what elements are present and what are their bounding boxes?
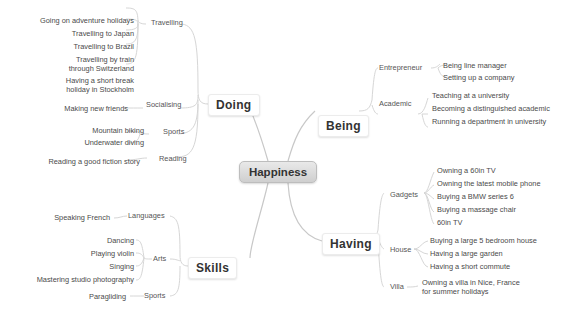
node-villa[interactable]: Villa bbox=[390, 282, 404, 291]
leaf-60in-tv-2[interactable]: 60in TV bbox=[437, 218, 462, 227]
leaf-mountain-biking[interactable]: Mountain biking bbox=[92, 126, 144, 135]
leaf-short-commute[interactable]: Having a short commute bbox=[430, 262, 510, 271]
leaf-paragliding[interactable]: Paragliding bbox=[89, 292, 126, 301]
node-languages[interactable]: Languages bbox=[128, 211, 165, 220]
node-having[interactable]: Having bbox=[322, 233, 380, 255]
root-node-happiness[interactable]: Happiness bbox=[239, 161, 317, 183]
leaf-playing-violin[interactable]: Playing violin bbox=[91, 249, 134, 258]
leaf-studio-photography[interactable]: Mastering studio photography bbox=[37, 275, 134, 284]
leaf-underwater-diving[interactable]: Underwater diving bbox=[84, 138, 144, 147]
node-doing-label: Doing bbox=[216, 98, 252, 112]
node-doing[interactable]: Doing bbox=[208, 94, 260, 116]
leaf-line: holiday in Stockholm bbox=[66, 85, 134, 94]
leaf-adventure-holidays[interactable]: Going on adventure holidays bbox=[40, 16, 134, 25]
leaf-large-garden[interactable]: Having a large garden bbox=[430, 249, 503, 258]
leaf-stockholm-break[interactable]: Having a short break holiday in Stockhol… bbox=[66, 76, 134, 94]
root-label: Happiness bbox=[249, 166, 307, 178]
node-skills-label: Skills bbox=[196, 261, 229, 275]
leaf-line: Having a short break bbox=[66, 76, 134, 85]
node-doing-sports[interactable]: Sports bbox=[163, 127, 184, 136]
leaf-line: Travelling by train bbox=[69, 55, 134, 64]
node-arts[interactable]: Arts bbox=[153, 254, 166, 263]
leaf-dancing[interactable]: Dancing bbox=[107, 236, 134, 245]
leaf-distinguished-academic[interactable]: Becoming a distinguished academic bbox=[432, 104, 550, 113]
leaf-bmw-series-6[interactable]: Buying a BMW series 6 bbox=[437, 192, 514, 201]
node-gadgets[interactable]: Gadgets bbox=[390, 190, 418, 199]
leaf-5-bedroom-house[interactable]: Buying a large 5 bedroom house bbox=[430, 236, 537, 245]
leaf-travelling-japan[interactable]: Travelling to Japan bbox=[72, 29, 134, 38]
mind-map-canvas: Happiness Doing Travelling Going on adve… bbox=[0, 0, 584, 314]
leaf-massage-chair[interactable]: Buying a massage chair bbox=[437, 205, 516, 214]
node-academic[interactable]: Academic bbox=[379, 99, 411, 108]
leaf-making-friends[interactable]: Making new friends bbox=[64, 104, 128, 113]
leaf-travelling-brazil[interactable]: Travelling to Brazil bbox=[73, 42, 134, 51]
leaf-running-department[interactable]: Running a department in university bbox=[432, 117, 546, 126]
leaf-teaching-university[interactable]: Teaching at a university bbox=[432, 91, 509, 100]
node-travelling[interactable]: Travelling bbox=[151, 18, 183, 27]
leaf-line-manager[interactable]: Being line manager bbox=[443, 61, 507, 70]
node-having-label: Having bbox=[330, 237, 372, 251]
leaf-villa-nice[interactable]: Owning a villa in Nice, France for summe… bbox=[422, 278, 520, 296]
leaf-singing[interactable]: Singing bbox=[109, 262, 134, 271]
leaf-travelling-switzerland[interactable]: Travelling by train through Switzerland bbox=[69, 55, 134, 73]
node-skills[interactable]: Skills bbox=[188, 257, 237, 279]
leaf-line: for summer holidays bbox=[422, 287, 520, 296]
leaf-line: Owning a villa in Nice, France bbox=[422, 278, 520, 287]
node-skills-sports[interactable]: Sports bbox=[144, 291, 165, 300]
leaf-60in-tv[interactable]: Owning a 60in TV bbox=[437, 166, 496, 175]
node-being[interactable]: Being bbox=[318, 115, 369, 137]
leaf-fiction-story[interactable]: Reading a good fiction story bbox=[48, 157, 140, 166]
node-house[interactable]: House bbox=[390, 245, 411, 254]
node-being-label: Being bbox=[326, 119, 361, 133]
leaf-setting-up-company[interactable]: Setting up a company bbox=[443, 73, 515, 82]
node-reading[interactable]: Reading bbox=[159, 154, 187, 163]
leaf-mobile-phone[interactable]: Owning the latest mobile phone bbox=[437, 179, 541, 188]
leaf-line: through Switzerland bbox=[69, 64, 134, 73]
leaf-speaking-french[interactable]: Speaking French bbox=[54, 213, 110, 222]
node-socialising[interactable]: Socialising bbox=[146, 100, 181, 109]
node-entrepreneur[interactable]: Entrepreneur bbox=[379, 63, 422, 72]
